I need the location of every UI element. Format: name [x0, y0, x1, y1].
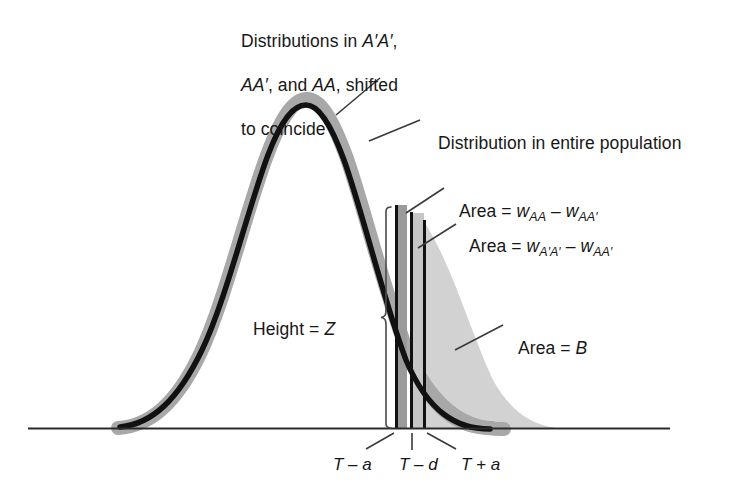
annotation-shifted-line2-genotype-2: AA	[312, 75, 336, 95]
annotation-shifted-line2-suffix: , shifted	[336, 75, 398, 95]
annotation-shifted-line2-conj: , and	[268, 75, 312, 95]
annotation-shifted-line1-prefix: Distributions in	[241, 31, 362, 51]
annotation-height-z-prefix: Height =	[253, 319, 324, 339]
annotation-entire-population-text: Distribution in entire population	[438, 133, 682, 153]
annotation-area-apap-term1-base: w	[527, 236, 540, 256]
annotation-area-apap-operator: –	[561, 236, 581, 256]
leader-line-t-plus-a	[427, 433, 456, 449]
annotation-area-b-symbol: B	[576, 338, 588, 358]
axis-label-t-minus-d: T – d	[399, 455, 438, 475]
annotation-area-apap-prefix: Area =	[469, 236, 527, 256]
annotation-shifted-line3: to coincide	[241, 119, 326, 139]
annotation-height-z-symbol: Z	[324, 319, 335, 339]
annotation-area-b-prefix: Area =	[518, 338, 576, 358]
axis-label-t-plus-a: T + a	[461, 455, 500, 475]
leader-line-area-aa	[406, 188, 444, 213]
annotation-area-apap-term2-base: w	[580, 236, 593, 256]
annotation-entire-population: Distribution in entire population	[428, 110, 682, 154]
annotation-shifted-line1-genotype: A′A′	[362, 31, 392, 51]
annotation-height-z: Height = Z	[243, 296, 335, 340]
annotation-area-b: Area = B	[509, 315, 587, 359]
leader-line-t-minus-a	[366, 433, 394, 449]
annotation-area-apap-minus-aaprime: Area = wA′A′ – wAA′	[460, 213, 612, 263]
annotation-shifted-line2-genotype-1: AA′	[241, 75, 268, 95]
annotation-shifted-line1-comma: ,	[393, 31, 398, 51]
annotation-area-apap-term2-sub: AA′	[593, 245, 612, 259]
strip-area-aa-minus-aaprime	[397, 205, 407, 428]
annotation-shifted-distributions: Distributions in A′A′, AA′, and AA, shif…	[231, 8, 461, 140]
axis-label-t-minus-a: T – a	[333, 455, 372, 475]
annotation-area-apap-term1-sub: A′A′	[539, 245, 560, 259]
